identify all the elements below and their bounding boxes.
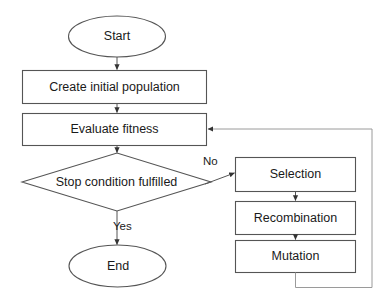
recombination-node-shape bbox=[236, 202, 356, 235]
end-node-shape bbox=[69, 245, 166, 287]
create-population-node-shape bbox=[23, 71, 207, 104]
flowchart-diagram: Start Create initial population Evaluate… bbox=[0, 0, 392, 305]
mutation-node-shape bbox=[236, 241, 356, 273]
flowchart-canvas bbox=[0, 0, 392, 305]
evaluate-fitness-node-shape bbox=[23, 114, 207, 146]
stop-condition-node-shape bbox=[22, 153, 211, 211]
start-node-shape bbox=[69, 16, 166, 57]
selection-node-shape bbox=[236, 158, 356, 192]
edge-stop-condition-no-to-selection bbox=[205, 173, 235, 184]
